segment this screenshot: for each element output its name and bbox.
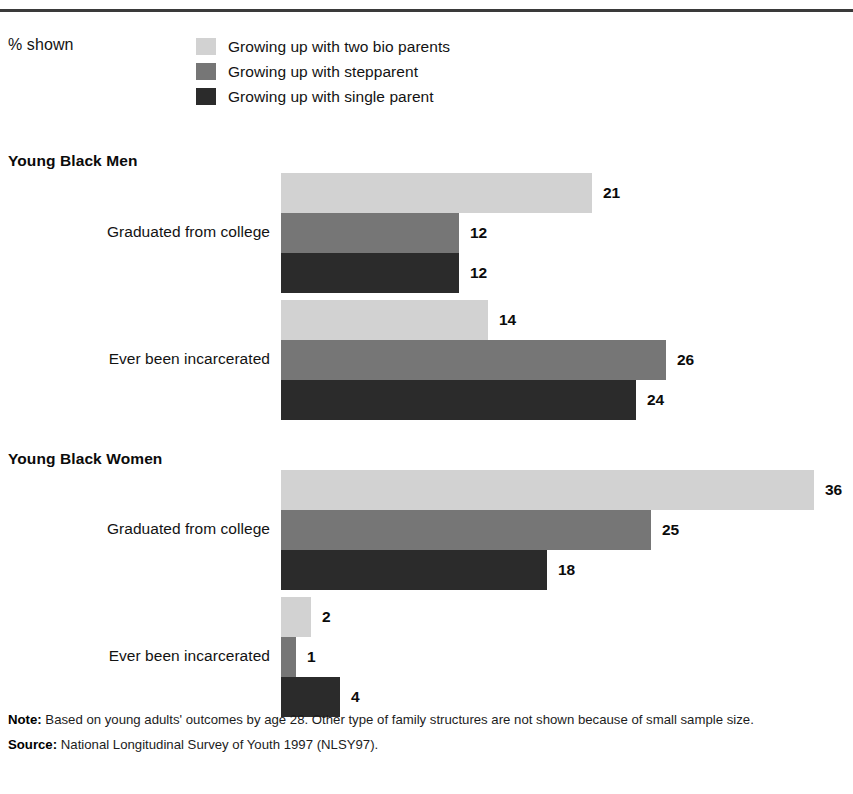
bar [281,510,651,550]
bar [281,340,666,380]
bar-row: 21 [281,173,853,213]
bar [281,597,311,637]
bar-row: 14 [281,300,853,340]
percent-shown-label: % shown [8,36,74,54]
note-line: Note: Based on young adults' outcomes by… [8,711,846,729]
source-label: Source: [8,737,57,752]
bar-value-label: 26 [677,340,694,380]
bar-row: 12 [281,253,853,293]
bar [281,550,547,590]
legend-item: Growing up with two bio parents [196,34,676,59]
legend-item: Growing up with stepparent [196,59,676,84]
legend-label-stepparent: Growing up with stepparent [228,63,418,81]
bar-row: 26 [281,340,853,380]
bar [281,637,296,677]
bar-row: 1 [281,637,853,677]
bar-value-label: 25 [662,510,679,550]
cluster-label: Graduated from college [0,223,270,241]
note-label: Note: [8,712,42,727]
chart-legend: Growing up with two bio parents Growing … [196,34,676,109]
bar-row: 25 [281,510,853,550]
bar-value-label: 2 [322,597,331,637]
legend-swatch-single-parent [196,88,216,105]
bar-value-label: 18 [558,550,575,590]
legend-swatch-two-bio-parents [196,38,216,55]
bar-row: 36 [281,470,853,510]
footnotes-block: Note: Based on young adults' outcomes by… [8,711,846,754]
bar-value-label: 21 [603,173,620,213]
bar [281,213,459,253]
top-divider-rule [0,9,853,12]
bar [281,300,488,340]
bar-row: 12 [281,213,853,253]
legend-label-two-bio-parents: Growing up with two bio parents [228,38,450,56]
legend-swatch-stepparent [196,63,216,80]
bar [281,173,592,213]
group-title: Young Black Men [8,152,138,170]
source-text: National Longitudinal Survey of Youth 19… [57,737,378,752]
chart-page: % shown Growing up with two bio parents … [0,0,853,794]
cluster-label: Graduated from college [0,520,270,538]
group-title: Young Black Women [8,450,162,468]
cluster-label: Ever been incarcerated [0,647,270,665]
cluster-label: Ever been incarcerated [0,350,270,368]
bar [281,470,814,510]
bar-value-label: 14 [499,300,516,340]
bar [281,380,636,420]
bar [281,253,459,293]
bar-value-label: 12 [470,253,487,293]
bar-value-label: 24 [647,380,664,420]
note-text: Based on young adults' outcomes by age 2… [42,712,754,727]
legend-item: Growing up with single parent [196,84,676,109]
legend-label-single-parent: Growing up with single parent [228,88,434,106]
bar-value-label: 1 [307,637,316,677]
bar-row: 2 [281,597,853,637]
bar-row: 24 [281,380,853,420]
bar-value-label: 36 [825,470,842,510]
source-line: Source: National Longitudinal Survey of … [8,736,846,754]
bar-row: 18 [281,550,853,590]
bar-value-label: 12 [470,213,487,253]
